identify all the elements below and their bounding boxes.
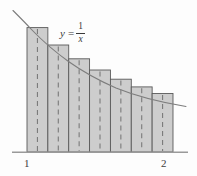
- table-row: [27, 28, 48, 152]
- curve-label-equals: =: [68, 28, 74, 39]
- x-axis-tick-label-1: 1: [24, 158, 30, 169]
- riemann-sum-figure: y = 1 x 1 2: [0, 0, 197, 176]
- curve-equation-label: y = 1 x: [60, 22, 85, 44]
- fraction-one-over-x: 1 x: [76, 22, 85, 44]
- fraction-numerator: 1: [76, 22, 85, 33]
- plot-canvas: [0, 0, 197, 176]
- table-row: [48, 45, 69, 152]
- fraction-denominator: x: [77, 34, 85, 45]
- x-axis-tick-label-2: 2: [161, 158, 167, 169]
- curve-label-variable: y: [60, 28, 65, 39]
